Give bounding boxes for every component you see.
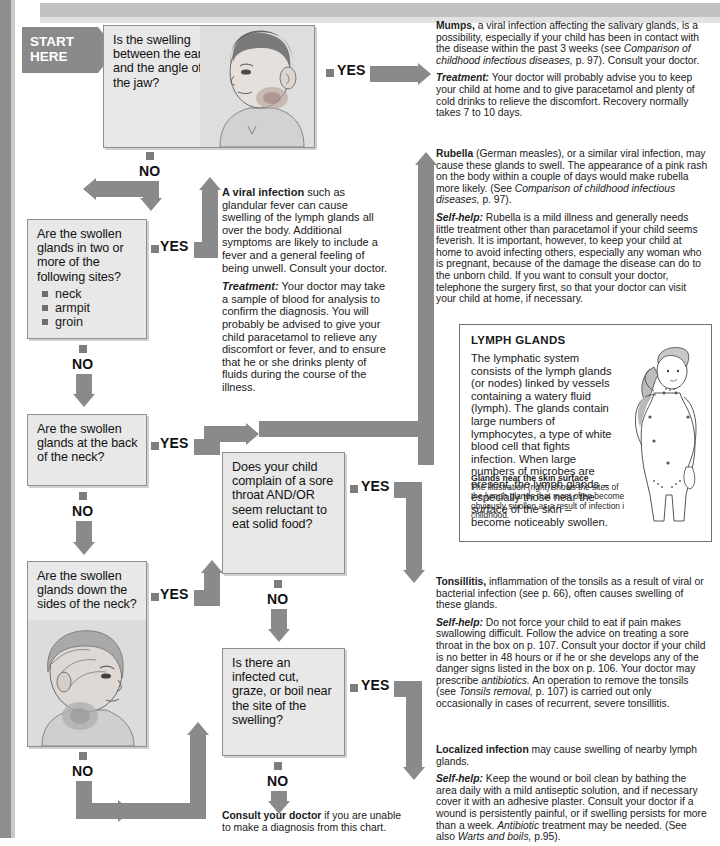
arrow-no-4-shaft (76, 781, 92, 803)
arrow-yes-1-shaft (370, 66, 418, 82)
arrow-rubella-riser (418, 165, 434, 465)
advice-mumps-treatment-header: Treatment: (436, 72, 489, 83)
arrow-no-3-shaft (76, 521, 92, 542)
no-label-5: NO (267, 591, 288, 607)
endnote-consult-doctor: Consult your doctor if you are unable to… (222, 810, 402, 834)
advice-rubella-lead: Rubella (436, 148, 473, 159)
arrow-yes-2-riser (202, 190, 218, 245)
arrow-yes-5-drop (406, 482, 422, 570)
header-rule (40, 3, 720, 17)
advice-rubella-paragraph-1: Rubella (German measles), or a similar v… (436, 148, 708, 206)
arrow-no-1-elbow-head-icon (83, 178, 96, 200)
arrow-no-5-shaft (271, 609, 287, 629)
advice-mumps-lead: Mumps, (436, 20, 475, 31)
arrow-rubella-head-icon (415, 152, 437, 165)
arrow-no-4-riser-head-icon (187, 722, 209, 735)
arrow-rubella-elbow (418, 165, 434, 181)
no-marker-6 (274, 762, 282, 770)
arrow-no-4-run (76, 803, 206, 819)
advice-localized-p2-i1: Antibiotic (497, 820, 539, 831)
page-gutter (0, 0, 11, 838)
advice-viral-treatment-header: Treatment: (222, 280, 279, 292)
advice-rubella-selfhelp-header: Self-help: (436, 212, 483, 223)
yes-label-3: YES (160, 435, 189, 451)
advice-viral-p2-rest: Your doctor may take a sample of blood f… (222, 280, 386, 393)
advice-localized-lead: Localized infection (436, 744, 529, 755)
yes-label-2: YES (160, 238, 189, 254)
no-label-4: NO (72, 763, 93, 779)
advice-mumps: Mumps, a viral infection affecting the s… (436, 20, 708, 125)
advice-localized-paragraph-2: Self-help: Keep the wound or boil clean … (436, 773, 708, 843)
advice-viral-lead: A viral infection (222, 186, 304, 198)
advice-tonsillitis-lead: Tonsillitis, (436, 576, 486, 587)
question-2-text: Are the swollen glands in two or more of… (28, 220, 146, 284)
lymph-glands-caption-body: The illustration (right) shows the sites… (471, 483, 631, 521)
yes-marker-1 (326, 69, 334, 77)
advice-tonsillitis-paragraph-1: Tonsillitis, inflammation of the tonsils… (436, 576, 708, 611)
arrow-yes-4-riser (204, 573, 220, 606)
question-box-3[interactable]: Are the swollen glands at the back of th… (27, 414, 147, 486)
advice-mumps-p1-tail: p. 97). Consult your doctor. (573, 55, 700, 66)
yes-label-4: YES (160, 586, 189, 602)
lymph-glands-infobox: LYMPH GLANDS The lymphatic system consis… (459, 324, 712, 542)
question-2-bullet-groin: groin (42, 315, 138, 329)
arrow-yes-1-head-icon (418, 63, 431, 85)
arrow-yes-6-head-icon (403, 767, 425, 780)
no-label-3: NO (72, 503, 93, 519)
arrow-no-4-riser (190, 735, 206, 819)
yes-label-6: YES (361, 677, 390, 693)
no-label-1: NO (139, 163, 160, 179)
arrow-yes-5-head-icon (403, 570, 425, 583)
no-marker-1 (146, 152, 154, 160)
arrow-yes-3-run (204, 426, 246, 442)
advice-viral-infection: A viral infection such as glandular feve… (222, 186, 390, 400)
no-marker-2 (79, 345, 87, 353)
advice-mumps-paragraph-2: Treatment: Your doctor will probably adv… (436, 72, 708, 118)
advice-mumps-paragraph-1: Mumps, a viral infection affecting the s… (436, 20, 708, 66)
advice-viral-paragraph-1: A viral infection such as glandular feve… (222, 186, 390, 274)
question-4-text: Are the swollen glands down the sides of… (28, 562, 146, 612)
question-box-6[interactable]: Is there an infected cut, graze, or boil… (222, 648, 345, 756)
yes-label-5: YES (361, 478, 390, 494)
advice-viral-p1-rest: such as glandular fever can cause swelli… (222, 186, 387, 274)
question-2-bullet-armpit: armpit (42, 301, 138, 315)
yes-marker-5 (350, 485, 358, 493)
question-6-text: Is there an infected cut, graze, or boil… (223, 649, 344, 727)
illustration-boy-head (200, 26, 314, 147)
illustration-child-torso (624, 345, 710, 537)
no-label-2: NO (72, 356, 93, 372)
arrow-no-1-elbow (96, 181, 146, 197)
yes-marker-4 (151, 593, 159, 601)
arrow-rubella-run (259, 421, 419, 437)
yes-marker-3 (151, 442, 159, 450)
illustration-girl-head (28, 620, 146, 746)
arrow-no-4-head-icon (118, 800, 131, 822)
advice-viral-paragraph-2: Treatment: Your doctor may take a sample… (222, 280, 390, 393)
question-3-text: Are the swollen glands at the back of th… (28, 415, 146, 465)
advice-tonsillitis: Tonsillitis, inflammation of the tonsils… (436, 576, 708, 716)
arrow-yes-2-head-icon (199, 177, 221, 190)
advice-tonsillitis-p2-i2: Tonsils removal, (459, 686, 533, 697)
arrow-yes-3-head-icon (246, 423, 259, 445)
advice-tonsillitis-p2-i1: antibiotics. (481, 675, 530, 686)
no-marker-3 (79, 492, 87, 500)
advice-localized-p2-i2: Warts and boils, (458, 831, 532, 842)
arrow-yes-4-head-icon (201, 560, 223, 573)
no-marker-5 (274, 580, 282, 588)
advice-rubella-p1-tail: p. 97). (480, 194, 512, 205)
page-gutter-edge (11, 0, 15, 838)
arrow-no-5-head-icon (268, 629, 290, 642)
advice-tonsillitis-selfhelp-header: Self-help: (436, 617, 483, 628)
advice-localized-infection: Localized infection may cause swelling o… (436, 744, 708, 846)
yes-marker-2 (151, 245, 159, 253)
advice-rubella-paragraph-2: Self-help: Rubella is a mild illness and… (436, 212, 708, 305)
advice-localized-selfhelp-header: Self-help: (436, 773, 483, 784)
arrow-no-1-head-icon (140, 198, 162, 211)
question-box-5[interactable]: Does your child complain of a sore throa… (222, 452, 345, 574)
yes-label-1: YES (337, 62, 366, 78)
arrow-no-3-head-icon (73, 542, 95, 555)
question-box-2[interactable]: Are the swollen glands in two or more of… (27, 219, 147, 339)
arrow-no-2-shaft (76, 374, 92, 394)
advice-localized-p2-c: p.95). (531, 831, 560, 842)
